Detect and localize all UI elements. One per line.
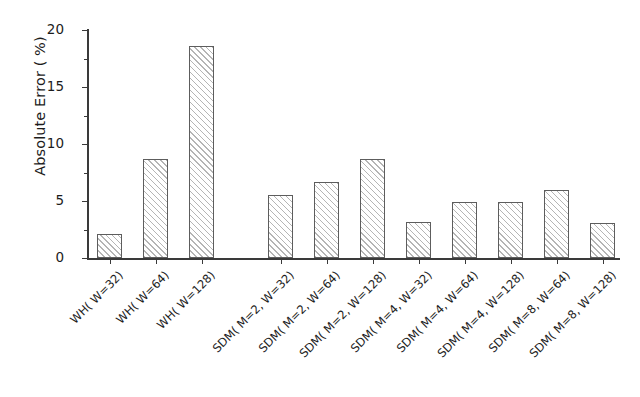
x-tick-mark — [110, 259, 111, 264]
x-tick-mark — [281, 259, 282, 264]
y-tick-label: 0 — [4, 249, 64, 265]
bar — [406, 222, 431, 258]
bar — [452, 202, 477, 258]
x-tick-mark — [419, 259, 420, 264]
bar — [360, 159, 385, 258]
y-tick-label: 5 — [4, 192, 64, 208]
x-tick-label: SDM( M=2, W=128) — [294, 268, 389, 363]
x-tick-mark — [465, 259, 466, 264]
x-tick-label: SDM( M=4, W=32) — [340, 268, 435, 363]
bar — [97, 234, 122, 258]
y-tick-mark — [82, 258, 88, 259]
y-tick-label: 10 — [4, 135, 64, 151]
bar — [314, 182, 339, 258]
x-axis-line — [87, 258, 620, 260]
bar — [143, 159, 168, 258]
bar — [590, 223, 615, 258]
x-tick-mark — [603, 259, 604, 264]
y-tick-label: 15 — [4, 78, 64, 94]
x-tick-label: SDM( M=8, W=64) — [478, 268, 573, 363]
x-tick-mark — [156, 259, 157, 264]
x-tick-mark — [511, 259, 512, 264]
x-tick-mark — [373, 259, 374, 264]
bar — [498, 202, 523, 258]
bars-container — [88, 30, 620, 258]
y-tick-label: 20 — [4, 21, 64, 37]
x-tick-label: SDM( M=2, W=64) — [248, 268, 343, 363]
bar — [189, 46, 214, 258]
x-tick-label: SDM( M=8, W=128) — [524, 268, 619, 363]
x-tick-mark — [557, 259, 558, 264]
x-tick-label: SDM( M=4, W=128) — [432, 268, 527, 363]
x-tick-label: WH( W=128) — [123, 268, 218, 363]
x-tick-label: WH( W=32) — [31, 268, 126, 363]
x-tick-label: SDM( M=2, W=32) — [202, 268, 297, 363]
bar — [268, 195, 293, 258]
x-tick-mark — [202, 259, 203, 264]
x-tick-label: WH( W=64) — [77, 268, 172, 363]
x-tick-label: SDM( M=4, W=64) — [386, 268, 481, 363]
bar — [544, 190, 569, 258]
x-tick-mark — [327, 259, 328, 264]
bar-chart-figure: Absolute Error ( %) 05101520 WH( W=32)WH… — [0, 0, 640, 397]
